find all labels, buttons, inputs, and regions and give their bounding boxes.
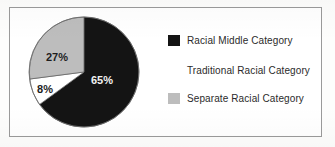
legend-item-traditional-racial-category[interactable]: Traditional Racial Category [168, 63, 310, 77]
legend-label-racial-middle-category: Racial Middle Category [187, 35, 293, 46]
pie-label-8: 8% [37, 83, 53, 95]
white-swatch-icon [168, 65, 180, 76]
legend-item-racial-middle-category[interactable]: Racial Middle Category [168, 33, 293, 47]
pie-chart-figure: 65% 8% 27% Racial Middle Category Tradit… [0, 0, 335, 147]
legend-label-separate-racial-category: Separate Racial Category [187, 93, 304, 104]
pie-svg: 65% 8% 27% [22, 10, 146, 134]
legend-item-separate-racial-category[interactable]: Separate Racial Category [168, 91, 304, 105]
pie-label-65: 65% [91, 74, 113, 86]
black-swatch-icon [168, 35, 180, 46]
pie-chart: 65% 8% 27% [22, 10, 146, 134]
legend-label-traditional-racial-category: Traditional Racial Category [187, 65, 310, 76]
pie-slice-separate-racial-category [29, 17, 84, 79]
gray-swatch-icon [168, 93, 180, 104]
chart-legend: Racial Middle Category Traditional Racia… [168, 28, 320, 116]
pie-label-27: 27% [46, 51, 68, 63]
